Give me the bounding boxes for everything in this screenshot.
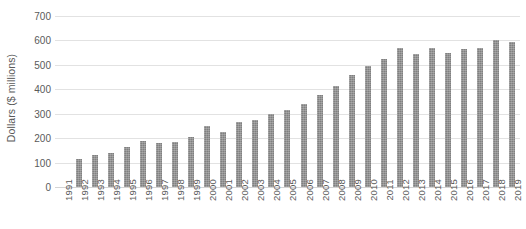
bar[interactable] — [477, 48, 483, 187]
y-axis-tick-label: 100 — [34, 157, 51, 168]
bar-slot — [167, 16, 183, 187]
bar-chart: Dollars ($ millions) 7006005004003002001… — [0, 0, 526, 229]
x-axis-tick-label: 2002 — [231, 188, 247, 229]
bar-slot — [279, 16, 295, 187]
bar-slot — [296, 16, 312, 187]
bar-slot — [103, 16, 119, 187]
bar-slot — [199, 16, 215, 187]
bar-slot — [392, 16, 408, 187]
x-axis-tick-label: 1999 — [183, 188, 199, 229]
bar-slot — [71, 16, 87, 187]
x-axis-tick-label: 1997 — [151, 188, 167, 229]
y-axis-tick-labels: 7006005004003002001000 — [22, 0, 55, 195]
bar-slot — [55, 16, 71, 187]
x-axis-tick-label: 2014 — [424, 188, 440, 229]
x-axis-tick-label: 1991 — [55, 188, 71, 229]
bar-slot — [87, 16, 103, 187]
x-axis-tick-label: 1996 — [135, 188, 151, 229]
bar-slot — [312, 16, 328, 187]
y-axis-title-label: Dollars ($ millions) — [5, 53, 17, 141]
x-axis-tick-label: 1993 — [87, 188, 103, 229]
y-axis-tick-label: 600 — [34, 35, 51, 46]
bar[interactable] — [429, 48, 435, 187]
bar-slot — [328, 16, 344, 187]
x-axis-tick-label: 2019 — [504, 188, 520, 229]
x-axis-tick-label-text: 2019 — [512, 179, 523, 201]
x-axis-tick-label: 2009 — [344, 188, 360, 229]
bar[interactable] — [509, 42, 515, 187]
bar-slot — [408, 16, 424, 187]
bar-slot — [135, 16, 151, 187]
bar[interactable] — [284, 110, 290, 187]
bar-slot — [183, 16, 199, 187]
x-axis-tick-label: 2008 — [328, 188, 344, 229]
bar[interactable] — [413, 54, 419, 187]
y-axis-tick-label: 500 — [34, 59, 51, 70]
x-axis-tick-label: 2006 — [296, 188, 312, 229]
bar[interactable] — [445, 53, 451, 187]
bar[interactable] — [381, 59, 387, 187]
y-axis-tick-label: 200 — [34, 133, 51, 144]
x-axis-tick-label: 2007 — [312, 188, 328, 229]
y-axis-title: Dollars ($ millions) — [0, 0, 22, 195]
bar[interactable] — [349, 75, 355, 187]
x-axis-tick-label: 2005 — [279, 188, 295, 229]
x-axis-tick-label: 2000 — [199, 188, 215, 229]
bar-slot — [472, 16, 488, 187]
bar-slot — [151, 16, 167, 187]
y-axis-tick-label: 700 — [34, 11, 51, 22]
y-axis-tick-label: 0 — [45, 182, 51, 193]
plot-area — [55, 16, 520, 187]
bar-slot — [360, 16, 376, 187]
bar[interactable] — [301, 104, 307, 187]
x-axis-tick-label: 1998 — [167, 188, 183, 229]
bar[interactable] — [204, 126, 210, 187]
x-axis-tick-label: 2003 — [247, 188, 263, 229]
bar-slot — [488, 16, 504, 187]
x-axis-tick-label: 2015 — [440, 188, 456, 229]
y-axis-tick-label: 300 — [34, 108, 51, 119]
bar-slot — [376, 16, 392, 187]
x-axis-tick-label: 2010 — [360, 188, 376, 229]
bar-slot — [456, 16, 472, 187]
bar[interactable] — [461, 49, 467, 187]
bar[interactable] — [252, 120, 258, 187]
x-axis-tick-label: 2018 — [488, 188, 504, 229]
x-axis-tick-label: 2013 — [408, 188, 424, 229]
bar[interactable] — [493, 40, 499, 187]
x-axis-tick-label: 2016 — [456, 188, 472, 229]
bar-slot — [440, 16, 456, 187]
bar-slot — [504, 16, 520, 187]
x-axis-tick-label: 1994 — [103, 188, 119, 229]
bar-slot — [424, 16, 440, 187]
bar-slot — [263, 16, 279, 187]
x-axis-tick-label: 2012 — [392, 188, 408, 229]
bar[interactable] — [397, 48, 403, 187]
bar[interactable] — [268, 114, 274, 187]
x-axis-tick-label: 2017 — [472, 188, 488, 229]
x-axis-tick-label: 1995 — [119, 188, 135, 229]
y-axis-tick-label: 400 — [34, 84, 51, 95]
bar-slot — [215, 16, 231, 187]
bar-slot — [231, 16, 247, 187]
bar[interactable] — [317, 95, 323, 187]
bar-slot — [344, 16, 360, 187]
x-axis-tick-label: 2011 — [376, 188, 392, 229]
bar[interactable] — [236, 122, 242, 187]
x-axis-tick-label: 1992 — [71, 188, 87, 229]
bar[interactable] — [365, 66, 371, 187]
x-axis-tick-label: 2004 — [263, 188, 279, 229]
x-axis-tick-label: 2001 — [215, 188, 231, 229]
bar-slot — [119, 16, 135, 187]
x-axis-tick-labels: 1991199219931994199519961997199819992000… — [55, 188, 520, 229]
bar[interactable] — [333, 86, 339, 187]
bar-slot — [247, 16, 263, 187]
bars-layer — [55, 16, 520, 187]
